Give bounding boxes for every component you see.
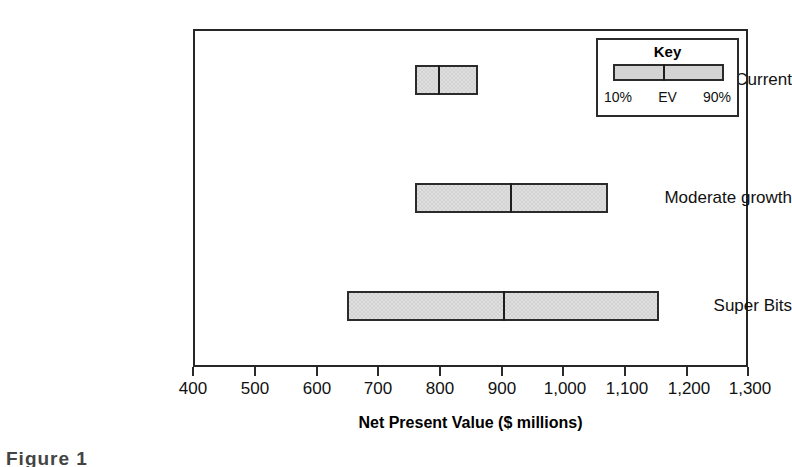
x-axis-ticklabel-1000: 1,000 — [530, 379, 600, 399]
legend-entry-ev: EV — [658, 89, 677, 105]
ev-marker-current — [438, 65, 440, 95]
bar-fill-texture — [417, 67, 476, 93]
bar-moderate-growth — [415, 183, 608, 213]
x-axis-tick-1200 — [686, 367, 688, 376]
figure-caption: Figure 1 — [6, 448, 88, 467]
legend-entry-p90: 90% — [703, 89, 731, 105]
x-axis-ticklabel-700: 700 — [343, 379, 413, 399]
x-axis-ticklabel-500: 500 — [220, 379, 290, 399]
bar-current — [415, 65, 478, 95]
legend-sample-bar — [613, 64, 724, 81]
x-axis-ticklabel-600: 600 — [282, 379, 352, 399]
x-axis-tick-700 — [377, 367, 379, 376]
legend-ev-marker — [663, 64, 665, 81]
x-axis-tick-800 — [439, 367, 441, 376]
ev-marker-super-bits — [503, 291, 505, 321]
legend-entries: 10% EV 90% — [604, 87, 731, 107]
x-axis-tick-500 — [254, 367, 256, 376]
x-axis-ticklabel-1100: 1,100 — [592, 379, 662, 399]
x-axis-tick-400 — [192, 367, 194, 376]
y-axis-label-moderate-growth: Moderate growth — [607, 188, 792, 208]
x-axis-tick-1300 — [747, 367, 749, 376]
ev-marker-moderate-growth — [510, 183, 512, 213]
x-axis-tick-1000 — [562, 367, 564, 376]
legend-entry-p10: 10% — [604, 89, 632, 105]
x-axis-tick-600 — [316, 367, 318, 376]
x-axis-tick-900 — [501, 367, 503, 376]
legend-title: Key — [598, 43, 737, 60]
x-axis-tick-1100 — [624, 367, 626, 376]
x-axis-ticklabel-1200: 1,200 — [654, 379, 724, 399]
legend-key-box: Key 10% EV 90% — [596, 38, 739, 117]
x-axis-ticklabel-1300: 1,300 — [715, 379, 785, 399]
figure-chart: Current Moderate growth Super Bits 400 5… — [0, 0, 792, 467]
x-axis-title: Net Present Value ($ millions) — [193, 414, 748, 432]
x-axis-ticklabel-400: 400 — [158, 379, 228, 399]
x-axis-ticklabel-900: 900 — [467, 379, 537, 399]
bar-super-bits — [347, 291, 659, 321]
x-axis-ticklabel-800: 800 — [405, 379, 475, 399]
